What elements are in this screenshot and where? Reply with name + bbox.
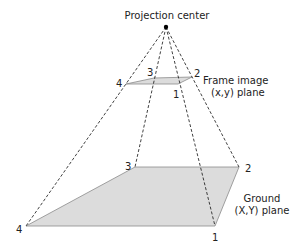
frame-corner-3-label: 3 bbox=[147, 67, 153, 78]
projection-center-dot bbox=[164, 25, 168, 29]
frame-plane-label-line1: Frame image bbox=[203, 75, 268, 86]
frame-corner-4-label: 4 bbox=[116, 78, 122, 89]
frame-corner-1-label: 1 bbox=[173, 89, 179, 100]
frame-image-plane bbox=[126, 77, 192, 84]
ray-corner-3 bbox=[135, 27, 166, 167]
ground-corner-2-label: 2 bbox=[245, 163, 251, 174]
ground-plane bbox=[26, 167, 239, 226]
ground-plane-label-line1: Ground bbox=[244, 193, 281, 204]
projection-center-label: Projection center bbox=[125, 10, 211, 21]
ground-corner-3-label: 3 bbox=[125, 161, 131, 172]
ground-corner-4-label: 4 bbox=[16, 224, 22, 235]
ground-plane-label-line2: (X,Y) plane bbox=[235, 205, 290, 216]
frame-plane-label-line2: (x,y) plane bbox=[211, 87, 265, 98]
frame-corner-2-label: 2 bbox=[194, 68, 200, 79]
ground-corner-1-label: 1 bbox=[212, 232, 218, 243]
projection-diagram: Projection center 4 3 2 1 Frame image (x… bbox=[0, 0, 296, 250]
